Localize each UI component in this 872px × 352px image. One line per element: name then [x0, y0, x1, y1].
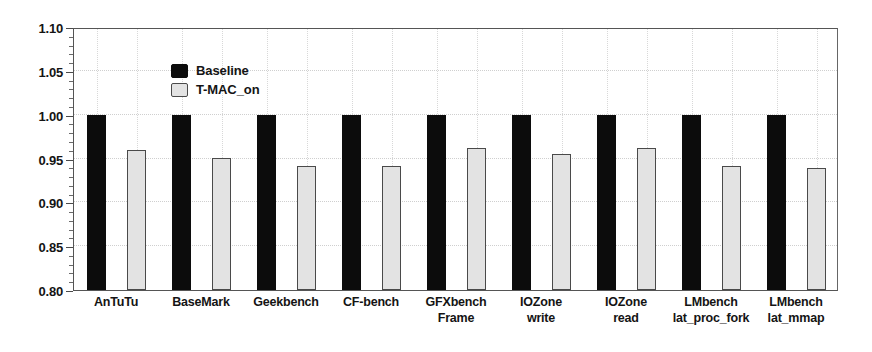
x-axis-label-line2: lat_mmap: [768, 310, 825, 326]
y-tick-major: [66, 28, 73, 29]
x-axis-label-line2: Frame: [426, 310, 487, 326]
x-axis-label-line1: Geekbench: [253, 295, 319, 309]
bar-tmac-6: [637, 148, 656, 290]
x-axis-label-2: Geekbench: [253, 294, 319, 310]
bar-tmac-1: [212, 158, 231, 290]
bar-tmac-8: [807, 168, 826, 290]
y-axis: 0.800.850.900.951.001.051.10: [0, 0, 73, 352]
bar-baseline-2: [257, 115, 276, 290]
x-axis-label-1: BaseMark: [172, 294, 229, 310]
bar-tmac-5: [552, 154, 571, 290]
y-tick-label: 0.90: [38, 196, 63, 211]
x-axis-label-5: IOZonewrite: [520, 294, 562, 326]
bar-tmac-4: [467, 148, 486, 290]
x-axis-label-line2: lat_proc_fork: [673, 310, 750, 326]
x-axis-label-7: LMbenchlat_proc_fork: [673, 294, 750, 326]
x-axis-label-line1: AnTuTu: [94, 295, 138, 309]
bar-tmac-3: [382, 166, 401, 290]
x-axis-label-6: IOZoneread: [605, 294, 647, 326]
y-tick-label: 1.05: [38, 64, 63, 79]
legend-item-tmac: T-MAC_on: [171, 80, 259, 99]
y-tick-major: [66, 247, 73, 248]
y-tick-major: [66, 291, 73, 292]
legend-item-baseline: Baseline: [171, 61, 259, 80]
y-tick-label: 0.85: [38, 240, 63, 255]
x-axis-label-line1: IOZone: [605, 295, 647, 309]
bar-baseline-0: [87, 115, 106, 290]
x-axis-label-line1: CF-bench: [343, 295, 399, 309]
x-axis-labels: AnTuTuBaseMarkGeekbenchCF-benchGFXbenchF…: [73, 294, 838, 352]
x-axis-label-line1: LMbench: [769, 295, 822, 309]
legend-label-baseline: Baseline: [196, 63, 249, 78]
y-tick-major: [66, 116, 73, 117]
y-tick-label: 0.95: [38, 152, 63, 167]
bar-baseline-3: [342, 115, 361, 290]
bar-baseline-1: [172, 115, 191, 290]
x-axis-label-line2: write: [520, 310, 562, 326]
x-axis-label-line1: GFXbench: [426, 295, 487, 309]
bar-tmac-7: [722, 166, 741, 291]
x-axis-label-4: GFXbenchFrame: [426, 294, 487, 326]
y-tick-major: [66, 203, 73, 204]
bar-tmac-0: [127, 150, 146, 290]
x-axis-label-line2: read: [605, 310, 647, 326]
bar-baseline-8: [767, 115, 786, 290]
legend-swatch-tmac: [171, 83, 188, 97]
x-axis-label-line1: IOZone: [520, 295, 562, 309]
y-tick-major: [66, 72, 73, 73]
x-axis-label-8: LMbenchlat_mmap: [768, 294, 825, 326]
y-tick-label: 0.80: [38, 284, 63, 299]
bar-tmac-2: [297, 166, 316, 290]
bar-baseline-4: [427, 115, 446, 290]
y-tick-major: [66, 160, 73, 161]
bar-baseline-7: [682, 115, 701, 290]
bar-baseline-5: [512, 115, 531, 290]
chart-legend: Baseline T-MAC_on: [167, 59, 263, 101]
x-axis-label-3: CF-bench: [343, 294, 399, 310]
bar-baseline-6: [597, 115, 616, 290]
x-axis-label-line1: BaseMark: [172, 295, 229, 309]
y-tick-label: 1.00: [38, 108, 63, 123]
x-axis-label-0: AnTuTu: [94, 294, 138, 310]
plot-area: Baseline T-MAC_on: [73, 28, 838, 291]
bar-chart-figure: 0.800.850.900.951.001.051.10 Baseline T-…: [0, 0, 872, 352]
y-tick-label: 1.10: [38, 21, 63, 36]
legend-swatch-baseline: [171, 64, 188, 78]
x-axis-label-line1: LMbench: [684, 295, 737, 309]
legend-label-tmac: T-MAC_on: [196, 82, 259, 97]
